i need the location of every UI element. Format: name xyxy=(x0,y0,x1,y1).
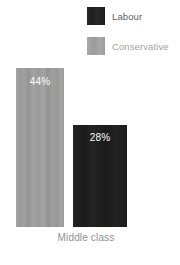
category-axis-label: Middle class xyxy=(0,232,172,244)
bar-chart: Labour Conservative 44% 28% Middle class xyxy=(0,0,180,265)
plot-area: 44% 28% xyxy=(0,0,180,265)
bar-value-label-labour: 28% xyxy=(73,132,127,144)
bar-conservative[interactable]: 44% xyxy=(16,68,64,227)
bar-value-label-conservative: 44% xyxy=(16,76,64,88)
bar-labour[interactable]: 28% xyxy=(73,125,127,227)
